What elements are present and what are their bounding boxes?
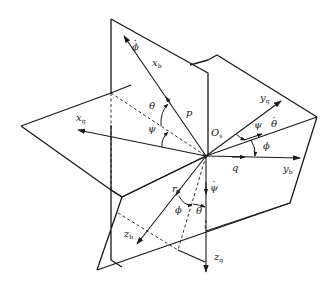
- y-b-label: yb: [283, 164, 293, 175]
- vertical-plane: [111, 19, 208, 190]
- phi-lower-label: ϕ: [175, 205, 182, 215]
- z-b-axis: [137, 156, 206, 244]
- psi-upper-label: ψ: [148, 124, 156, 134]
- theta-dot-label: θ: [271, 119, 277, 129]
- theta-upper-label: θ: [149, 101, 155, 111]
- psi-arc-right: [236, 134, 245, 140]
- q-label: q: [232, 163, 238, 173]
- psi-right-label: ψ: [254, 120, 262, 130]
- r-label: r: [172, 184, 177, 194]
- diagram-canvas: ϕ xb θ p xg ψ Os yg ψ θ ϕ q yb ψ r ϕ θ z…: [0, 0, 333, 285]
- phi-dot-label: ϕ: [132, 42, 139, 52]
- x-b-label: xb: [152, 58, 161, 69]
- p-label: p: [186, 108, 192, 118]
- theta-lower-label: θ: [196, 206, 202, 216]
- x-b-axis: [124, 36, 206, 156]
- frames-drawing: [0, 0, 333, 285]
- phi-right-label: ϕ: [263, 141, 270, 151]
- y-g-label: yg: [260, 93, 270, 104]
- z-b-label: zb: [124, 229, 133, 240]
- origin-point: [204, 154, 207, 157]
- lower-left-edge: [122, 156, 206, 197]
- theta-arc-upper: [161, 104, 168, 126]
- origin-label: Os: [211, 128, 222, 139]
- z-g-label: zg: [214, 252, 223, 263]
- phi-arc-right: [251, 140, 255, 156]
- y-b-axis: [206, 156, 300, 158]
- psi-dot-label: ψ: [210, 183, 218, 193]
- x-g-label: xg: [76, 113, 85, 124]
- psi-arc-upper: [162, 132, 168, 147]
